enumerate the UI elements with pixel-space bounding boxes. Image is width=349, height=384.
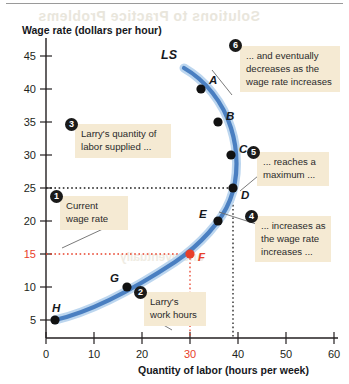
callout-2-badge: 2 [134,286,147,299]
y-tick-10: 10 [14,281,36,293]
y-tick-25: 25 [14,182,36,194]
y-tick-30: 30 [14,149,36,161]
x-tick-10: 10 [83,348,105,360]
y-tick-15-highlighted: 15 [14,248,36,260]
data-point-F [185,249,194,258]
leader-line-callout-1 [62,228,105,248]
x-tick-20: 20 [131,348,153,360]
x-tick-0: 0 [35,348,57,360]
data-point-A [196,84,205,93]
y-tick-40: 40 [14,83,36,95]
callout-2-text: Larry's work hours [144,292,206,326]
callout-1-text: Current wage rate [60,196,128,230]
point-label-A: A [209,74,217,86]
point-label-B: B [226,110,234,122]
y-tick-5: 5 [14,314,36,326]
curve-label-LS: LS [161,48,177,62]
data-point-E [213,216,222,225]
point-label-D: D [241,189,249,201]
callout-4-text: ... increases as the wage rate increases… [255,216,331,262]
callout-3-badge: 3 [65,118,78,131]
x-tick-60: 60 [323,348,345,360]
callout-3-text: Larry's quantity of labor supplied ... [75,124,171,158]
data-point-D [228,183,237,192]
data-point-C [226,150,235,159]
callout-6-badge: 6 [229,39,242,52]
y-tick-35: 35 [14,116,36,128]
data-point-B [213,117,222,126]
data-point-G [122,282,131,291]
figure-root: Solutions to Practice Problems and event… [0,0,349,384]
callout-6-text: ... and eventually decreases as the wage… [240,46,340,92]
data-point-H [50,315,59,324]
callout-5-text: ... reaches a maximum ... [257,152,329,186]
point-label-G: G [110,272,119,284]
x-tick-30-highlighted: 30 [179,348,201,360]
callout-4-badge: 4 [245,210,258,223]
y-tick-45: 45 [14,50,36,62]
point-label-H: H [52,302,60,314]
x-tick-50: 50 [275,348,297,360]
labor-supply-curve [55,68,237,320]
point-label-F: F [198,251,205,263]
y-tick-20: 20 [14,215,36,227]
callout-1-badge: 1 [50,190,63,203]
point-label-E: E [199,208,207,220]
x-tick-40: 40 [227,348,249,360]
callout-5-badge: 5 [247,146,260,159]
